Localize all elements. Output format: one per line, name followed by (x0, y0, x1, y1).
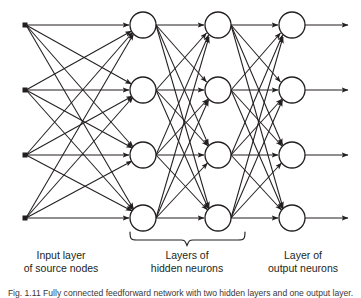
hidden-layers-brace (130, 232, 245, 246)
edges-input-to-hidden1 (26, 25, 134, 218)
output-layer-label-line2: output neurons (245, 262, 361, 275)
hidden-layer-1-neurons (130, 12, 156, 231)
hidden1-neuron (130, 12, 156, 38)
hidden2-neuron (205, 77, 231, 103)
input-layer-label: Input layer of source nodes (0, 249, 122, 274)
input-layer-label-line2: of source nodes (0, 262, 122, 275)
input-layer-label-line1: Input layer (0, 249, 122, 262)
output-neuron (279, 77, 305, 103)
output-neuron (279, 12, 305, 38)
edges-hidden1-to-hidden2 (156, 25, 209, 218)
hidden-layer-2-neurons (205, 12, 231, 231)
hidden2-neuron (205, 205, 231, 231)
hidden2-neuron (205, 12, 231, 38)
input-node (23, 88, 28, 93)
input-source-nodes (23, 23, 28, 221)
hidden1-neuron (130, 142, 156, 168)
hidden2-neuron (205, 142, 231, 168)
edges-hidden2-to-output (231, 25, 283, 218)
hidden-layers-label-line1: Layers of (127, 249, 247, 262)
output-arrows (305, 25, 348, 218)
output-layer-label: Layer of output neurons (245, 249, 361, 274)
output-neuron (279, 142, 305, 168)
output-layer-label-line1: Layer of (245, 249, 361, 262)
neural-network-figure: Input layer of source nodes Layers of hi… (0, 0, 361, 298)
output-neuron (279, 205, 305, 231)
output-layer-neurons (279, 12, 305, 231)
figure-caption: Fig. 1.11 Fully connected feedforward ne… (0, 288, 361, 298)
input-node (23, 23, 28, 28)
input-node (23, 216, 28, 221)
hidden-layers-label: Layers of hidden neurons (127, 249, 247, 274)
hidden-layers-label-line2: hidden neurons (127, 262, 247, 275)
hidden1-neuron (130, 205, 156, 231)
hidden1-neuron (130, 77, 156, 103)
input-node (23, 153, 28, 158)
network-diagram-svg (0, 0, 361, 262)
